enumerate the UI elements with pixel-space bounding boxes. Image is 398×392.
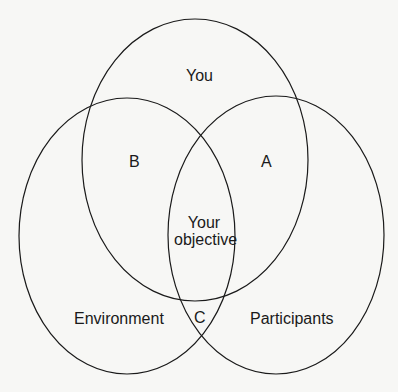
region-label-a: A: [261, 153, 272, 170]
set-label-environment: Environment: [74, 310, 164, 327]
region-label-c: C: [194, 309, 206, 326]
center-label-line2: objective: [174, 231, 234, 248]
region-label-b: B: [129, 153, 140, 170]
set-label-you: You: [186, 67, 213, 84]
venn-diagram: [0, 0, 398, 392]
set-label-participants: Participants: [250, 310, 334, 327]
center-label-line1: Your: [174, 214, 234, 231]
region-label-your-objective: Your objective: [174, 214, 234, 248]
set-you-ellipse: [82, 19, 308, 301]
